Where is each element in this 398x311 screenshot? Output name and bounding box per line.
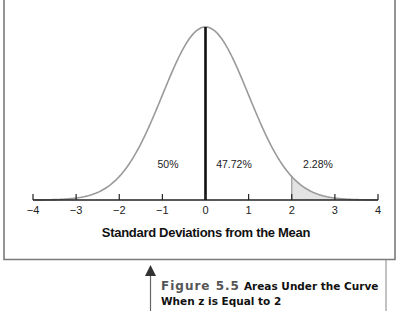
x-tick-label: −3 [70, 204, 83, 216]
x-tick-label: 1 [246, 204, 252, 216]
x-axis-title: Standard Deviations from the Mean [102, 225, 311, 240]
x-tick-label: 3 [332, 204, 338, 216]
arrow-up-icon [145, 265, 156, 276]
area-label-middle: 47.72% [216, 158, 252, 170]
area-label-left: 50% [157, 158, 178, 170]
caption-line-1: Areas Under the Curve [244, 280, 379, 292]
x-tick-label: 4 [375, 204, 381, 216]
figure-caption: Figure 5.5Areas Under the Curve When z i… [161, 279, 378, 309]
x-tick-label: −4 [27, 204, 40, 216]
normal-curve-chart: −4−3−2−101234 50% 47.72% 2.28% Standard … [0, 0, 398, 311]
x-tick-label: 2 [289, 204, 295, 216]
area-label-right: 2.28% [303, 158, 333, 170]
x-tick-label: −1 [156, 204, 169, 216]
chart-frame [4, 0, 395, 260]
figure-number: Figure 5.5 [161, 279, 240, 293]
x-axis-tick-labels: −4−3−2−101234 [27, 204, 381, 216]
x-tick-label: −2 [113, 204, 126, 216]
x-tick-label: 0 [202, 204, 208, 216]
plot-area: −4−3−2−101234 50% 47.72% 2.28% Standard … [27, 27, 381, 240]
caption-line-2: When z is Equal to 2 [161, 294, 378, 309]
